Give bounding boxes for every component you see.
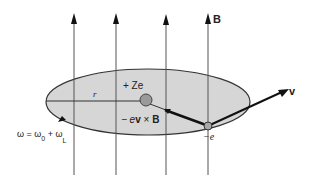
field-arrow-icon <box>113 13 119 24</box>
omega-plus: + ω <box>45 129 62 139</box>
field-arrow-icon <box>71 13 77 24</box>
radius-label: r <box>93 89 97 99</box>
larmor-precession-diagram: B + Ze r − ev × B v −e ω = ω0 + ωL <box>0 0 309 184</box>
field-arrow-icon <box>205 13 211 24</box>
omega-sub-L: L <box>63 137 67 144</box>
field-arrowheads <box>71 13 211 25</box>
electron <box>204 122 212 130</box>
force-label-B: B <box>152 114 159 125</box>
field-label: B <box>213 13 221 25</box>
velocity-label: v <box>289 85 296 97</box>
field-arrow-icon <box>163 14 169 25</box>
nucleus <box>140 94 152 106</box>
force-label-prefix: − e <box>121 114 136 125</box>
force-label-cross: × <box>141 114 152 125</box>
force-label: − ev × B <box>121 114 159 125</box>
omega-main: ω = ω <box>17 129 41 139</box>
omega-label: ω = ω0 + ωL <box>17 129 67 144</box>
electron-label: −e <box>203 131 215 142</box>
nucleus-label: + Ze <box>123 80 144 91</box>
